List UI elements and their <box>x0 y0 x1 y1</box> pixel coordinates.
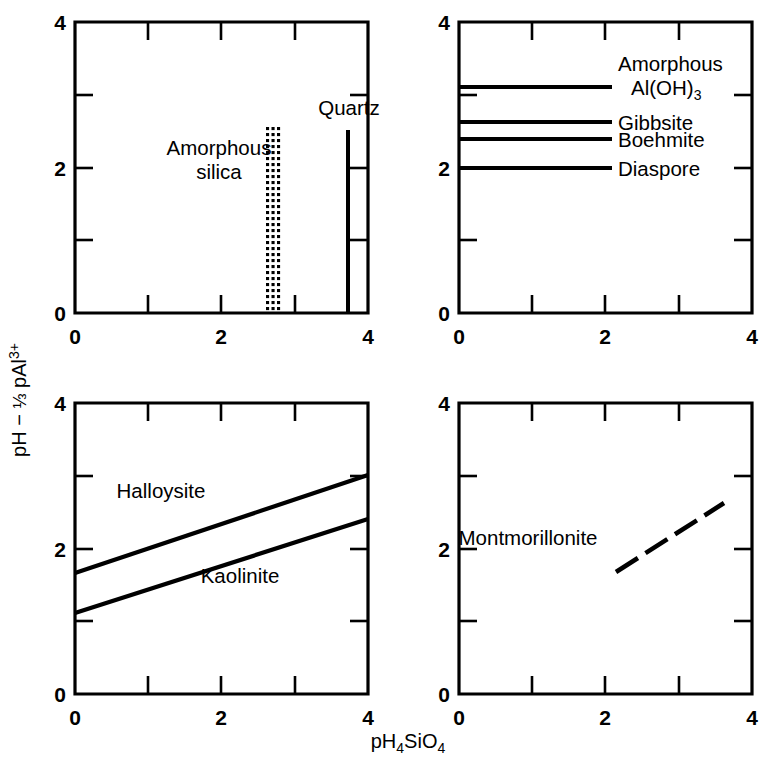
panel-kaolin-xlabel-4: 4 <box>362 706 374 729</box>
panel-silica-ylabel-4: 4 <box>54 11 66 34</box>
panel-kaolin-ylabel-4: 4 <box>54 392 66 415</box>
x-axis-title: pH4SiO4 <box>371 730 446 756</box>
panel-montmorillonite-ylabel-2: 2 <box>438 538 450 561</box>
panel-aluminum: 4 2 0 0 2 4 Amorphous Al(OH)3 Gibbsite B… <box>438 11 758 348</box>
amorphous-silica-label-line1: Amorphous <box>167 136 272 159</box>
panel-aluminum-ylabel-0: 0 <box>438 302 450 325</box>
panel-kaolin: 4 2 0 0 2 4 Halloysite Kaolinite <box>54 392 374 729</box>
montmorillonite-line <box>616 503 724 572</box>
montmorillonite-label: Montmorillonite <box>459 526 598 549</box>
halloysite-label: Halloysite <box>117 479 206 502</box>
quartz-label: Quartz <box>318 96 380 119</box>
kaolinite-label: Kaolinite <box>201 564 280 587</box>
panel-silica-xlabel-4: 4 <box>362 325 374 348</box>
svg-text:Al(OH)3: Al(OH)3 <box>631 76 702 103</box>
panel-kaolin-ylabel-0: 0 <box>54 683 66 706</box>
amorphous-aloh3-label-line2: Al(OH)3 <box>631 76 702 103</box>
y-axis-title: pH − ⅓ pAl3+ <box>6 343 30 457</box>
boehmite-label: Boehmite <box>618 128 705 151</box>
panel-silica-xlabel-0: 0 <box>69 325 81 348</box>
panel-montmorillonite-xlabel-2: 2 <box>599 706 611 729</box>
svg-text:pH − ⅓ pAl3+: pH − ⅓ pAl3+ <box>6 343 30 457</box>
figure-container: 4 2 0 0 2 4 <box>0 0 776 762</box>
panel-silica-ylabel-0: 0 <box>54 302 66 325</box>
four-panel-stability-diagram: 4 2 0 0 2 4 <box>0 0 776 762</box>
panel-aluminum-xlabel-4: 4 <box>746 325 758 348</box>
svg-text:pH4SiO4: pH4SiO4 <box>371 730 446 756</box>
panel-silica-ylabel-2: 2 <box>54 157 66 180</box>
panel-kaolin-xlabel-2: 2 <box>215 706 227 729</box>
panel-kaolin-frame <box>75 403 368 694</box>
panel-montmorillonite-xlabel-4: 4 <box>746 706 758 729</box>
panel-aluminum-ylabel-2: 2 <box>438 157 450 180</box>
panel-aluminum-xlabel-0: 0 <box>453 325 465 348</box>
amorphous-silica-label-line2: silica <box>196 160 242 183</box>
panel-silica-xlabel-2: 2 <box>215 325 227 348</box>
panel-kaolin-ylabel-2: 2 <box>54 538 66 561</box>
diaspore-label: Diaspore <box>618 157 700 180</box>
panel-montmorillonite-ylabel-4: 4 <box>438 392 450 415</box>
panel-silica: 4 2 0 0 2 4 <box>54 11 379 348</box>
panel-kaolin-xlabel-0: 0 <box>69 706 81 729</box>
amorphous-aloh3-label-line1: Amorphous <box>618 52 723 75</box>
panel-aluminum-ylabel-4: 4 <box>438 11 450 34</box>
panel-montmorillonite-xlabel-0: 0 <box>453 706 465 729</box>
panel-montmorillonite: 4 2 0 0 2 4 Montmorillonite <box>438 392 758 729</box>
panel-montmorillonite-ylabel-0: 0 <box>438 683 450 706</box>
panel-aluminum-xlabel-2: 2 <box>599 325 611 348</box>
